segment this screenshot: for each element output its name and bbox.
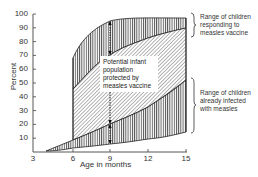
callout-line: Potential infant <box>103 58 155 66</box>
x-tick-label: 6 <box>66 155 80 163</box>
y-tick-label: 30 <box>12 107 28 115</box>
x-tick-label: 12 <box>141 155 155 163</box>
callout-line: protected by <box>103 74 155 82</box>
x-tick-label: 3 <box>26 155 40 163</box>
y-tick-label: 80 <box>12 38 28 46</box>
annotation-responders: Range of children responding to measles … <box>200 13 251 37</box>
y-tick-label: 70 <box>12 51 28 59</box>
annotation-line: already infected <box>200 97 251 105</box>
bracket-infected <box>191 78 196 133</box>
y-tick-label: 40 <box>12 93 28 101</box>
callout-line: measles vaccine <box>103 82 155 90</box>
annotation-line: responding to <box>200 21 251 29</box>
y-tick-label: 100 <box>12 10 28 18</box>
y-tick-label: 10 <box>12 134 28 142</box>
callout-line: population <box>103 66 155 74</box>
annotation-line: measles vaccine <box>200 29 251 37</box>
x-axis-title: Age in months <box>80 160 131 169</box>
annotation-line: Range of children <box>200 89 251 97</box>
callout-text: Potential infant population protected by… <box>101 57 157 91</box>
y-tick-label: 90 <box>12 24 28 32</box>
annotation-infected: Range of children already infected with … <box>200 89 251 113</box>
annotation-line: with measles <box>200 105 251 113</box>
x-tick-label: 15 <box>179 155 193 163</box>
y-tick-label: 20 <box>12 120 28 128</box>
annotation-line: Range of children <box>200 13 251 21</box>
bracket-responders <box>191 13 196 37</box>
y-axis-title: Percent <box>9 60 18 94</box>
